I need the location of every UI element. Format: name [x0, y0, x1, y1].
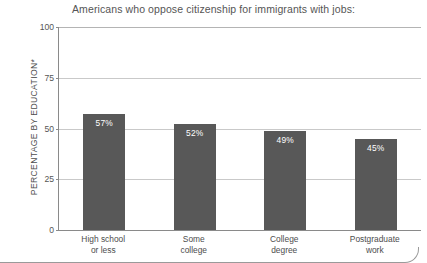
bar[interactable]: 45% [355, 139, 397, 230]
plot-area: 025507510057%52%49%45% [58, 27, 421, 231]
x-category-label-line2: college [149, 245, 240, 256]
bar-value-label: 45% [355, 143, 397, 153]
bar-value-label: 49% [264, 135, 306, 145]
gridline-75 [59, 78, 421, 79]
x-category-label-line1: College [270, 234, 298, 244]
y-tick-mark-75 [56, 78, 59, 79]
x-category-label: Somecollege [149, 234, 240, 255]
y-tick-label-50: 50 [44, 124, 54, 134]
y-tick-mark-25 [56, 179, 59, 180]
x-category-label-line2: work [330, 245, 421, 256]
y-tick-label-100: 100 [40, 22, 54, 32]
chart-title: Americans who oppose citizenship for imm… [0, 3, 427, 15]
gridline-100 [59, 27, 421, 28]
x-category-label-line2: degree [239, 245, 330, 256]
bar[interactable]: 57% [83, 114, 125, 230]
y-axis-title: PERCENTAGE BY EDUCATION* [29, 42, 39, 212]
x-category-label-line1: High school [81, 234, 125, 244]
x-category-label: Postgraduatework [330, 234, 421, 255]
y-tick-mark-0 [56, 230, 59, 231]
y-tick-mark-50 [56, 129, 59, 130]
y-tick-label-75: 75 [44, 73, 54, 83]
bar-chart-figure: Americans who oppose citizenship for imm… [0, 0, 427, 263]
y-tick-label-0: 0 [49, 225, 54, 235]
y-tick-label-25: 25 [44, 174, 54, 184]
x-category-label-line1: Some [183, 234, 205, 244]
x-category-label-line1: Postgraduate [350, 234, 400, 244]
bar-value-label: 52% [174, 128, 216, 138]
x-category-label: High schoolor less [58, 234, 149, 255]
bar-value-label: 57% [83, 118, 125, 128]
y-tick-mark-100 [56, 27, 59, 28]
bar[interactable]: 49% [264, 131, 306, 230]
x-category-label-line2: or less [58, 245, 149, 256]
x-category-label: Collegedegree [239, 234, 330, 255]
bar[interactable]: 52% [174, 124, 216, 230]
